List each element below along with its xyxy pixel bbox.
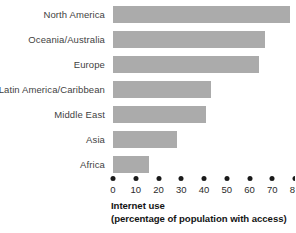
tick-label: 30	[176, 184, 187, 195]
tick-dot-icon	[293, 176, 296, 181]
tick-label: 0	[110, 184, 115, 195]
bar	[113, 31, 265, 48]
tick-label: 40	[199, 184, 210, 195]
category-label: Middle East	[54, 106, 105, 123]
plot-area	[113, 0, 295, 175]
axis-title-line-2: (percentage of population with access)	[111, 213, 295, 226]
category-label: Europe	[74, 56, 105, 73]
tick-dot-icon	[202, 176, 207, 181]
tick-dot-icon	[179, 176, 184, 181]
tick-label: 70	[267, 184, 278, 195]
bar-chart: North AmericaOceania/AustraliaEuropeLati…	[0, 0, 295, 233]
bar	[113, 81, 211, 98]
tick-label: 80	[290, 184, 295, 195]
tick-dot-icon	[111, 176, 116, 181]
tick-label: 50	[221, 184, 232, 195]
bar	[113, 156, 149, 173]
tick-label: 60	[244, 184, 255, 195]
bar	[113, 106, 206, 123]
value-axis: 01020304050607080	[113, 176, 295, 200]
bar	[113, 6, 290, 23]
tick-dot-icon	[224, 176, 229, 181]
bar	[113, 56, 259, 73]
tick-dot-icon	[247, 176, 252, 181]
bar	[113, 131, 177, 148]
tick-dot-icon	[133, 176, 138, 181]
tick-label: 10	[130, 184, 141, 195]
category-label: Africa	[80, 156, 105, 173]
category-label: North America	[44, 6, 106, 23]
category-label: Asia	[86, 131, 105, 148]
category-axis-labels: North AmericaOceania/AustraliaEuropeLati…	[0, 0, 109, 175]
category-label: Oceania/Australia	[28, 31, 105, 48]
tick-label: 20	[153, 184, 164, 195]
axis-title: Internet use (percentage of population w…	[111, 200, 295, 225]
category-label: Latin America/Caribbean	[0, 81, 105, 98]
tick-dot-icon	[270, 176, 275, 181]
axis-title-line-1: Internet use	[111, 200, 295, 213]
tick-dot-icon	[156, 176, 161, 181]
